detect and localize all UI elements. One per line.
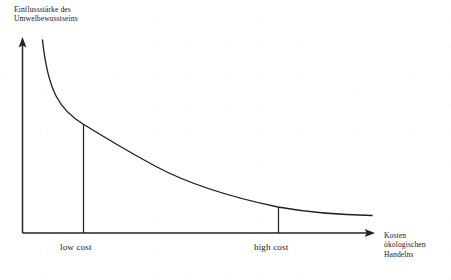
x-tick-label-high-cost: high cost bbox=[254, 242, 288, 253]
y-axis-title: Einflussstärke desUmwelbewusstseins bbox=[14, 5, 78, 24]
x-axis-title-line-2: ökologischen bbox=[384, 240, 426, 249]
x-axis-title-line-3: Handelns bbox=[384, 250, 413, 259]
y-axis-title-line-2: Umwelbewusstseins bbox=[14, 14, 78, 23]
x-axis-title: KostenökologischenHandelns bbox=[384, 231, 426, 259]
figure-container: Einflussstärke desUmwelbewusstseins Kost… bbox=[0, 0, 451, 280]
x-tick-label-low-cost: low cost bbox=[60, 242, 92, 253]
x-axis-title-line-1: Kosten bbox=[384, 231, 406, 240]
y-axis-title-line-1: Einflussstärke des bbox=[14, 5, 71, 14]
decay-curve bbox=[43, 40, 373, 216]
